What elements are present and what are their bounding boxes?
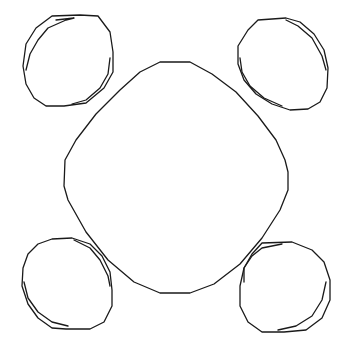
top-right-ellipse-outline — [238, 18, 328, 110]
bottom-left-ellipse-outline — [22, 238, 112, 329]
center-rounded-diamond-shape — [64, 62, 288, 293]
bottom-right-ellipse-inner-edge — [244, 244, 282, 282]
bottom-left-ellipse-shape — [22, 238, 112, 329]
top-left-ellipse-inner-edge-2 — [72, 58, 110, 104]
diagram-svg — [0, 0, 353, 345]
top-left-ellipse-outline — [23, 15, 113, 106]
bottom-right-ellipse-inner-edge-2 — [278, 282, 326, 330]
bottom-left-ellipse-inner-edge-2 — [24, 282, 68, 326]
top-right-ellipse-shape — [238, 18, 328, 110]
top-left-ellipse-shape — [23, 15, 113, 106]
bottom-right-ellipse-shape — [240, 242, 330, 332]
diagram-canvas — [0, 0, 353, 345]
top-left-ellipse-inner-edge — [26, 18, 74, 70]
